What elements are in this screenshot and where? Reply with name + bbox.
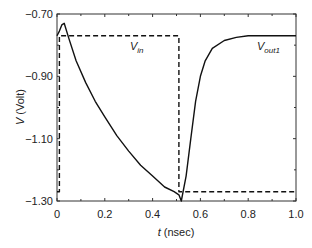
series-vin-line [57, 36, 296, 192]
x-tick-label: 0.8 [241, 208, 256, 220]
x-axis: 00.20.40.60.81.0 [54, 14, 304, 220]
y-tick-label: −0.90 [25, 70, 53, 82]
x-tick-label: 0.2 [97, 208, 112, 220]
x-axis-title: t (nsec) [158, 226, 195, 238]
y-axis: −0.70−0.90−1.10−1.30 [25, 8, 296, 207]
series-label-vout1: Vout1 [257, 40, 280, 55]
x-tick-label: 0.4 [145, 208, 160, 220]
x-tick-label: 0.6 [193, 208, 208, 220]
x-tick-label: 1.0 [288, 208, 303, 220]
y-tick-label: −1.10 [25, 133, 53, 145]
y-tick-label: −0.70 [25, 8, 53, 20]
chart-canvas: −0.70−0.90−1.10−1.30 00.20.40.60.81.0 V … [0, 0, 312, 248]
x-tick-label: 0 [54, 208, 60, 220]
y-axis-title: V (Volt) [14, 89, 26, 125]
y-tick-label: −1.30 [25, 195, 53, 207]
series-label-vin: Vin [130, 40, 144, 55]
